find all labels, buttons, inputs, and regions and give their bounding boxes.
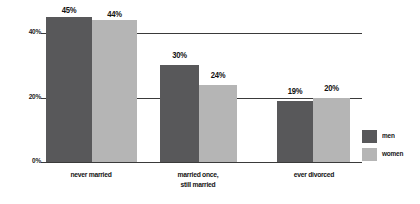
legend-swatch-men-icon — [362, 130, 377, 143]
bar-never-married-men — [46, 17, 92, 162]
bar-value-label: 20% — [315, 83, 348, 93]
legend-label-men: men — [382, 132, 395, 139]
category-label-line1: never married — [46, 170, 136, 180]
bar-value-label: 45% — [48, 5, 89, 15]
bar-ever-divorced-men — [277, 101, 313, 162]
y-tick-label: 0% — [13, 157, 41, 164]
bar-value-label: 30% — [162, 50, 197, 60]
x-axis-category-never-married: never married — [46, 170, 136, 180]
category-label-line1: married once, — [153, 170, 243, 180]
bar-chart: 40% 20% 0% 45% 44% 30% 24% 19% 20% never… — [0, 0, 420, 204]
legend-label-women: women — [382, 150, 403, 157]
legend-swatch-women-icon — [362, 148, 377, 161]
bar-married-once-women — [199, 85, 237, 162]
bar-value-label: 19% — [279, 86, 311, 96]
x-axis-category-ever-divorced: ever divorced — [269, 170, 359, 180]
y-tick-label: 40% — [13, 28, 41, 35]
bar-ever-divorced-women — [313, 98, 350, 162]
category-label-line2: still married — [153, 180, 243, 190]
x-axis-category-married-once: married once, still married — [153, 170, 243, 190]
bar-never-married-women — [92, 20, 137, 162]
y-tick-label: 20% — [13, 93, 41, 100]
plot-area: 40% 20% 0% 45% 44% 30% 24% 19% 20% never… — [0, 0, 420, 204]
bar-value-label: 24% — [201, 70, 235, 80]
category-label-line1: ever divorced — [269, 170, 359, 180]
bar-married-once-men — [160, 65, 199, 162]
bar-value-label: 44% — [94, 9, 135, 19]
